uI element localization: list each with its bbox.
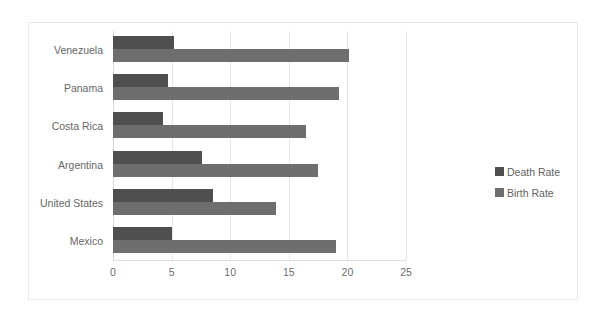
bar-death-rate: [113, 189, 213, 202]
x-axis-baseline: [113, 260, 406, 261]
x-tick-label: 20: [327, 266, 367, 278]
category-axis-labels: VenezuelaPanamaCosta RicaArgentinaUnited…: [0, 31, 105, 260]
legend-swatch-icon: [495, 167, 504, 176]
bar-birth-rate: [113, 125, 306, 138]
x-tick-label: 10: [210, 266, 250, 278]
gridline-25: [406, 31, 407, 260]
x-tick-label: 5: [152, 266, 192, 278]
chart-frame: VenezuelaPanamaCosta RicaArgentinaUnited…: [28, 22, 578, 300]
x-tick-label: 15: [269, 266, 309, 278]
bar-death-rate: [113, 74, 168, 87]
legend-label: Birth Rate: [507, 187, 554, 199]
x-tick-label: 25: [386, 266, 426, 278]
category-label: Venezuela: [0, 31, 103, 69]
bar-birth-rate: [113, 49, 349, 62]
category-label: Argentina: [0, 146, 103, 184]
legend-item[interactable]: Birth Rate: [495, 184, 575, 201]
bar-birth-rate: [113, 240, 336, 253]
bar-group: [113, 31, 406, 69]
bar-group: [113, 107, 406, 145]
category-label: Panama: [0, 69, 103, 107]
category-label: United States: [0, 184, 103, 222]
legend-label: Death Rate: [507, 166, 560, 178]
bar-group: [113, 222, 406, 260]
bar-group: [113, 184, 406, 222]
bar-death-rate: [113, 36, 174, 49]
bar-death-rate: [113, 112, 163, 125]
category-label: Mexico: [0, 222, 103, 260]
bar-death-rate: [113, 227, 172, 240]
legend-swatch-icon: [495, 188, 504, 197]
bar-group: [113, 69, 406, 107]
bar-birth-rate: [113, 87, 339, 100]
x-tick-label: 0: [93, 266, 133, 278]
plot-area: VenezuelaPanamaCosta RicaArgentinaUnited…: [113, 31, 406, 260]
category-label: Costa Rica: [0, 107, 103, 145]
chart-legend: Death RateBirth Rate: [495, 163, 575, 205]
bar-birth-rate: [113, 202, 276, 215]
bar-death-rate: [113, 151, 202, 164]
x-axis-tick-labels: 0510152025: [113, 266, 406, 282]
bar-birth-rate: [113, 164, 318, 177]
bar-group: [113, 146, 406, 184]
legend-item[interactable]: Death Rate: [495, 163, 575, 180]
